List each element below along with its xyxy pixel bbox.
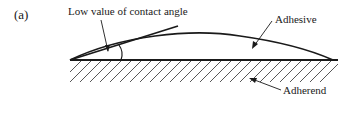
adherend-arrowhead xyxy=(249,78,257,83)
adherend-pointer xyxy=(252,79,281,90)
contact-angle-diagram xyxy=(0,0,353,115)
adhesive-pointer xyxy=(254,21,272,46)
adherend-hatching xyxy=(60,60,342,82)
contact-angle-arc xyxy=(119,45,122,60)
tangent-line xyxy=(70,26,178,60)
